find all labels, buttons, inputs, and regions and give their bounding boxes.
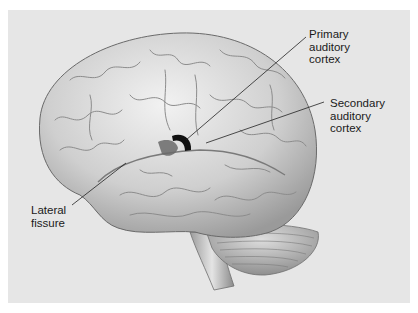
label-line: cortex — [309, 53, 350, 66]
label-line: auditory — [309, 41, 350, 54]
label-line: Primary — [309, 28, 350, 41]
lateral-fissure-label: Lateral fissure — [31, 204, 66, 229]
label-line: cortex — [330, 122, 385, 135]
secondary-auditory-cortex-label: Secondary auditory cortex — [330, 97, 385, 135]
primary-auditory-cortex-label: Primary auditory cortex — [309, 28, 350, 66]
label-line: Lateral — [31, 204, 66, 217]
label-line: auditory — [330, 110, 385, 123]
brain-illustration — [0, 0, 418, 313]
label-line: fissure — [31, 217, 66, 230]
label-line: Secondary — [330, 97, 385, 110]
